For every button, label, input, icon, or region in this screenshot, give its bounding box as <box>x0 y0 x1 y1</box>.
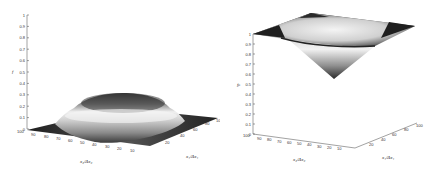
dome-surface-plot: 0 0.1 0.2 0.3 0.4 0.5 0.6 0.7 0.8 0.9 1 … <box>0 0 220 171</box>
z-axis-label: f <box>12 69 14 74</box>
svg-text:0.3: 0.3 <box>19 92 25 97</box>
x2-axis-ticks: 100 90 80 70 60 50 40 30 20 10 <box>243 133 342 151</box>
svg-text:60: 60 <box>193 127 198 132</box>
svg-text:0.2: 0.2 <box>245 112 251 117</box>
x1-axis-label: x₁/Δx₁ <box>185 154 199 159</box>
cone-surface-plot: 0 0.1 0.2 0.3 0.4 0.5 0.6 0.7 0.8 0.9 1 … <box>219 0 439 171</box>
svg-text:30: 30 <box>317 144 322 149</box>
svg-text:80: 80 <box>267 137 272 142</box>
svg-text:0.8: 0.8 <box>19 35 25 40</box>
cone-surface-chart: 0 0.1 0.2 0.3 0.4 0.5 0.6 0.7 0.8 0.9 1 … <box>219 0 439 171</box>
svg-text:50: 50 <box>297 141 302 146</box>
svg-text:60: 60 <box>287 140 292 145</box>
svg-text:90: 90 <box>257 136 262 141</box>
svg-text:20: 20 <box>369 142 374 147</box>
svg-text:0.9: 0.9 <box>19 24 25 29</box>
svg-text:0.4: 0.4 <box>19 81 25 86</box>
svg-text:10: 10 <box>337 146 342 151</box>
x2-axis-label: x₂/Δx₂ <box>292 157 306 162</box>
svg-text:50: 50 <box>80 140 85 145</box>
svg-text:20: 20 <box>165 140 170 145</box>
svg-text:20: 20 <box>117 146 122 151</box>
x1-axis-label: x₁/Δx₁ <box>381 155 395 160</box>
svg-text:0.4: 0.4 <box>245 92 251 97</box>
svg-text:30: 30 <box>105 144 110 149</box>
svg-text:0.1: 0.1 <box>245 122 251 127</box>
z-axis-ticks: 0 0.1 0.2 0.3 0.4 0.5 0.6 0.7 0.8 0.9 1 <box>19 13 29 132</box>
svg-text:0.9: 0.9 <box>245 42 251 47</box>
svg-text:40: 40 <box>180 133 185 138</box>
svg-text:60: 60 <box>392 132 397 137</box>
svg-text:0.7: 0.7 <box>245 62 251 67</box>
svg-text:70: 70 <box>277 139 282 144</box>
svg-text:20: 20 <box>327 145 332 150</box>
svg-text:0.6: 0.6 <box>245 72 251 77</box>
svg-text:40: 40 <box>92 142 97 147</box>
svg-text:0.5: 0.5 <box>19 70 25 75</box>
z-axis-label: fₚ <box>237 82 241 87</box>
svg-text:80: 80 <box>205 121 210 126</box>
svg-text:0.1: 0.1 <box>19 115 25 120</box>
dome-surface-chart: 0 0.1 0.2 0.3 0.4 0.5 0.6 0.7 0.8 0.9 1 … <box>0 0 220 171</box>
svg-text:0.3: 0.3 <box>245 102 251 107</box>
svg-text:70: 70 <box>56 136 61 141</box>
dome-highlight <box>65 109 177 123</box>
svg-text:40: 40 <box>381 137 386 142</box>
svg-text:0.7: 0.7 <box>19 47 25 52</box>
svg-text:0.5: 0.5 <box>245 82 251 87</box>
svg-text:80: 80 <box>404 127 409 132</box>
svg-text:100: 100 <box>416 123 423 128</box>
svg-text:0.2: 0.2 <box>19 104 25 109</box>
svg-text:60: 60 <box>68 138 73 143</box>
x2-axis-label: x₂/Δx₂ <box>79 159 93 164</box>
svg-text:0.6: 0.6 <box>19 58 25 63</box>
svg-text:40: 40 <box>307 142 312 147</box>
svg-text:100: 100 <box>17 129 24 134</box>
z-axis-ticks: 0 0.1 0.2 0.3 0.4 0.5 0.6 0.7 0.8 0.9 1 <box>245 32 255 137</box>
svg-text:80: 80 <box>44 134 49 139</box>
svg-text:1: 1 <box>23 13 26 18</box>
svg-text:100: 100 <box>243 133 250 138</box>
x1-axis-ticks: 20 40 60 80 100 <box>369 123 423 147</box>
svg-text:10: 10 <box>130 148 135 153</box>
svg-text:90: 90 <box>31 132 36 137</box>
svg-text:0.8: 0.8 <box>245 52 251 57</box>
svg-text:1: 1 <box>249 32 252 37</box>
